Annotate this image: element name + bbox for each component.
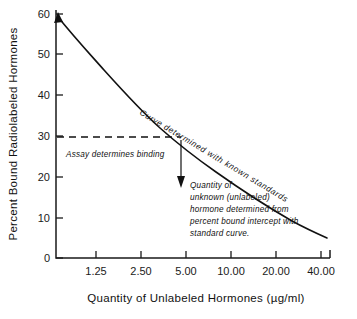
y-tick-label-0: 0 — [44, 252, 50, 264]
unknown-label-line-2: unknown (unlabeled) — [190, 193, 270, 202]
y-tick-label-60: 60 — [38, 8, 50, 20]
intercept-arrowhead — [177, 176, 185, 188]
y-tick-label-50: 50 — [38, 48, 50, 60]
x-tick-label-4: 10.00 — [217, 265, 245, 277]
x-tick-label-2: 2.50 — [130, 265, 151, 277]
x-tick-label-6: 40.00 — [307, 265, 335, 277]
assay-label: Assay determines binding — [65, 150, 165, 159]
y-tick-label-10: 10 — [38, 212, 50, 224]
unknown-label-line-1: Quantity of — [190, 181, 232, 190]
y-axis-title: Percent Bound Radiolabeled Hormones — [7, 27, 19, 240]
y-axis-ticks — [56, 14, 63, 258]
y-tick-label-40: 40 — [38, 89, 50, 101]
unknown-label-line-3: hormone determined from — [190, 205, 289, 214]
standard-curve-chart: 60 50 40 30 20 10 0 1.25 2.50 5.00 10.00… — [0, 0, 357, 319]
y-tick-label-30: 30 — [38, 130, 50, 142]
figure-container: 60 50 40 30 20 10 0 1.25 2.50 5.00 10.00… — [0, 0, 357, 319]
unknown-label-line-5: standard curve. — [190, 229, 249, 238]
y-tick-label-20: 20 — [38, 171, 50, 183]
x-axis-title: Quantity of Unlabeled Hormones (µg/ml) — [87, 292, 304, 304]
x-tick-label-3: 5.00 — [175, 265, 196, 277]
x-tick-label-5: 20.00 — [262, 265, 290, 277]
x-axis-ticks — [96, 251, 321, 258]
unknown-label-line-4: percent bound intercept with — [189, 217, 299, 226]
x-tick-label-1: 1.25 — [85, 265, 106, 277]
